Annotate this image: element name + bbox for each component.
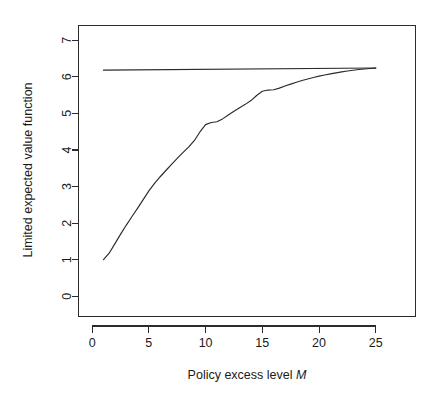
y-tick-label: 7 [61,37,75,44]
y-tick-label: 2 [61,220,75,227]
x-axis-title-prefix: Policy excess level [188,368,293,382]
y-tick-label: 6 [61,73,75,80]
x-axis-title-symbol: M [296,368,307,382]
x-tick-label: 20 [312,336,326,350]
x-tick-label: 0 [89,336,96,350]
y-axis-title-label: Limited expected value function [21,82,35,257]
y-tick-label: 0 [61,293,75,300]
x-tick-label: 10 [199,336,213,350]
x-tick-label: 25 [369,336,383,350]
x-tick-label: 15 [255,336,269,350]
x-axis-title: Policy excess level M [188,368,307,382]
y-tick-label: 4 [61,146,75,153]
y-tick-label: 3 [61,183,75,190]
x-tick-label: 5 [145,336,152,350]
y-tick-label: 5 [61,110,75,117]
limited-expected-value-chart: 01234567 0510152025 Policy excess level … [0,0,437,399]
y-tick-label: 1 [61,256,75,263]
y-axis-title: Limited expected value function [21,82,35,257]
svg-text:Policy excess level M: Policy excess level M [188,368,307,382]
chart-figure: 01234567 0510152025 Policy excess level … [0,0,437,399]
